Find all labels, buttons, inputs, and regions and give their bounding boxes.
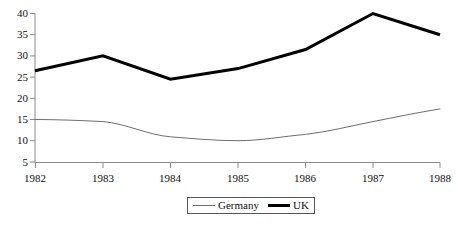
x-tick-label: 1984 xyxy=(147,173,193,184)
legend-entry-uk: UK xyxy=(268,199,309,211)
y-tick-label: 35 xyxy=(4,29,28,40)
line-chart: 40 35 30 25 20 15 10 5 1982 1983 1984 19… xyxy=(0,0,458,226)
y-tick-label: 5 xyxy=(4,157,28,168)
x-tick-label: 1985 xyxy=(215,173,261,184)
x-axis-ticks xyxy=(36,163,441,169)
legend-entry-germany: Germany xyxy=(193,199,259,211)
y-tick-label: 20 xyxy=(4,93,28,104)
legend-label-uk: UK xyxy=(293,199,309,211)
x-tick-label: 1987 xyxy=(350,173,396,184)
legend-line-swatch-uk xyxy=(268,204,290,207)
x-tick-label: 1986 xyxy=(282,173,328,184)
series-line-germany xyxy=(35,109,440,141)
legend-line-swatch-germany xyxy=(193,205,215,206)
series-line-uk xyxy=(35,14,440,80)
x-tick-label: 1983 xyxy=(80,173,126,184)
y-tick-label: 30 xyxy=(4,50,28,61)
chart-plot-area xyxy=(0,0,458,226)
y-tick-label: 15 xyxy=(4,114,28,125)
legend-label-germany: Germany xyxy=(218,199,259,211)
x-tick-label: 1982 xyxy=(12,173,58,184)
y-tick-label: 10 xyxy=(4,135,28,146)
y-axis-ticks xyxy=(30,14,35,163)
x-tick-label: 1988 xyxy=(417,173,458,184)
y-tick-label: 40 xyxy=(4,8,28,19)
y-tick-label: 25 xyxy=(4,72,28,83)
chart-legend: Germany UK xyxy=(187,197,315,214)
